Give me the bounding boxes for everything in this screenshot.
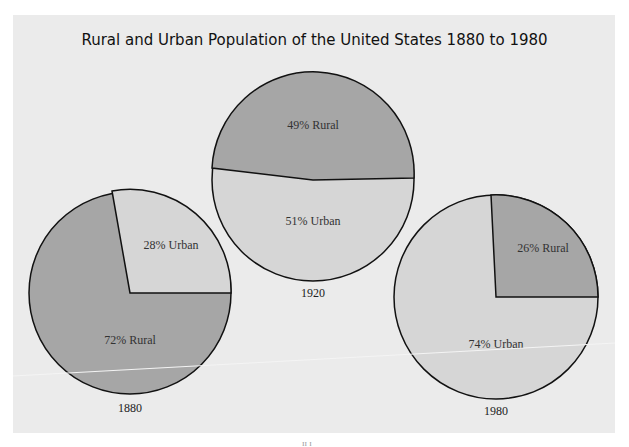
pie-1920-year: 1920 (301, 286, 325, 300)
pie-1980-year: 1980 (484, 404, 508, 418)
pie-1880-urban-label: 28% Urban (144, 238, 199, 252)
pie-1920: 49% Rural 51% Urban 1920 (212, 72, 414, 300)
page-footer-fragment: ɪɪ ɪ (302, 438, 312, 447)
pie-1920-rural-label: 49% Rural (287, 118, 339, 132)
pie-1880-rural-label: 72% Rural (104, 333, 156, 347)
pie-1980-rural-label: 26% Rural (517, 241, 569, 255)
pie-1880: 28% Urban 72% Rural 1880 (29, 189, 231, 415)
pie-1980: 26% Rural 74% Urban 1980 (394, 195, 598, 418)
pie-1920-urban-label: 51% Urban (286, 214, 341, 228)
pie-1880-year: 1880 (118, 401, 142, 415)
pie-charts: 28% Urban 72% Rural 1880 49% Rural 51% U… (0, 0, 629, 447)
